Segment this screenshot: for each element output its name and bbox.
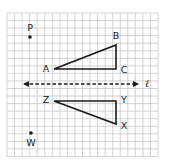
vertex-label-x: X xyxy=(121,121,128,131)
vertex-label-c: C xyxy=(121,65,128,75)
point-p-dot xyxy=(28,35,32,39)
point-w-dot xyxy=(29,131,33,135)
vertex-label-y: Y xyxy=(121,95,127,105)
vertex-label-b: B xyxy=(113,31,120,41)
point-label-w: W xyxy=(26,138,35,148)
reflection-line-label: ℓ xyxy=(145,79,149,89)
vertex-label-z: Z xyxy=(43,95,50,105)
vertex-label-a: A xyxy=(43,64,50,74)
point-label-p: P xyxy=(27,23,33,33)
